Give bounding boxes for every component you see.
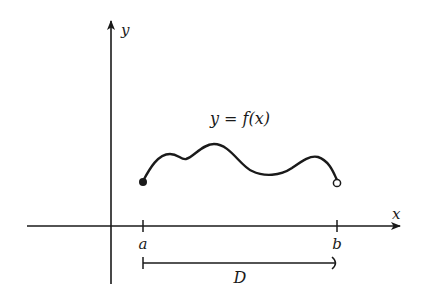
function-label: y = f(x)	[209, 109, 270, 128]
tick-label-b: b	[332, 235, 342, 253]
x-axis-label: x	[392, 205, 401, 223]
open-endpoint-icon	[333, 179, 340, 186]
domain-label: D	[233, 268, 247, 287]
closed-endpoint-icon	[139, 178, 147, 186]
function-curve	[143, 144, 337, 181]
tick-label-a: a	[139, 235, 148, 253]
y-axis-label: y	[120, 21, 130, 39]
function-diagram: y x a b D y = f(x)	[0, 0, 424, 297]
